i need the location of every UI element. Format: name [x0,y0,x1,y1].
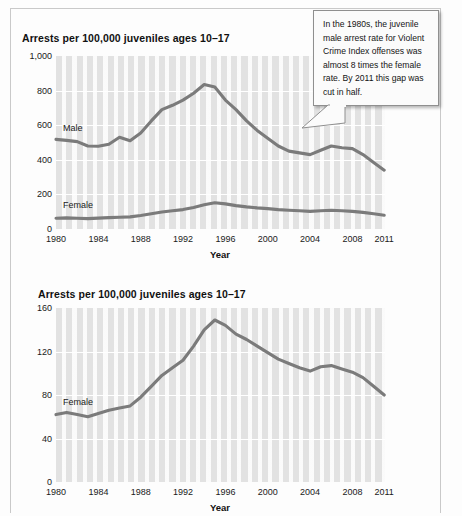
chart-bottom-xtick-2004: 2004 [300,487,320,497]
chart-bottom-xtick-1984: 1984 [88,487,108,497]
chart-top-xtick-2004: 2004 [300,234,320,244]
chart-bottom-xtick-1992: 1992 [173,487,193,497]
chart-top-label-female: Female [63,200,93,210]
chart-bottom-xtick-2000: 2000 [258,487,278,497]
chart-top-xtick-1984: 1984 [88,234,108,244]
chart-bottom-xtick-1996: 1996 [215,487,235,497]
chart-bottom-xtick-1988: 1988 [131,487,151,497]
chart-bottom-line-female [56,320,384,417]
chart-top-xtick-1980: 1980 [46,234,66,244]
callout-tail [300,104,346,130]
chart-top-xtick-2011: 2011 [375,234,394,244]
chart-top-xtick-2000: 2000 [258,234,278,244]
chart-top-xtick-1996: 1996 [215,234,235,244]
callout-box: In the 1980s, the juvenile male arrest r… [313,10,439,106]
chart-bottom-xtick-2008: 2008 [342,487,362,497]
chart-bottom-label-female: Female [63,397,93,407]
chart-bottom-xaxis-title: Year [210,502,230,513]
chart-bottom: Arrests per 100,000 juveniles ages 10–17… [0,280,462,516]
chart-top-xtick-1988: 1988 [131,234,151,244]
chart-top-xaxis-title: Year [210,249,230,260]
chart-top-label-male: Male [63,123,83,133]
chart-top-xtick-2008: 2008 [342,234,362,244]
callout-text: In the 1980s, the juvenile male arrest r… [323,18,430,99]
page-canvas: Arrests per 100,000 juveniles ages 10–17… [0,0,462,516]
chart-bottom-xtick-2011: 2011 [375,487,394,497]
chart-top-line-female [56,203,384,219]
chart-top-xtick-1992: 1992 [173,234,193,244]
chart-bottom-xtick-1980: 1980 [46,487,66,497]
